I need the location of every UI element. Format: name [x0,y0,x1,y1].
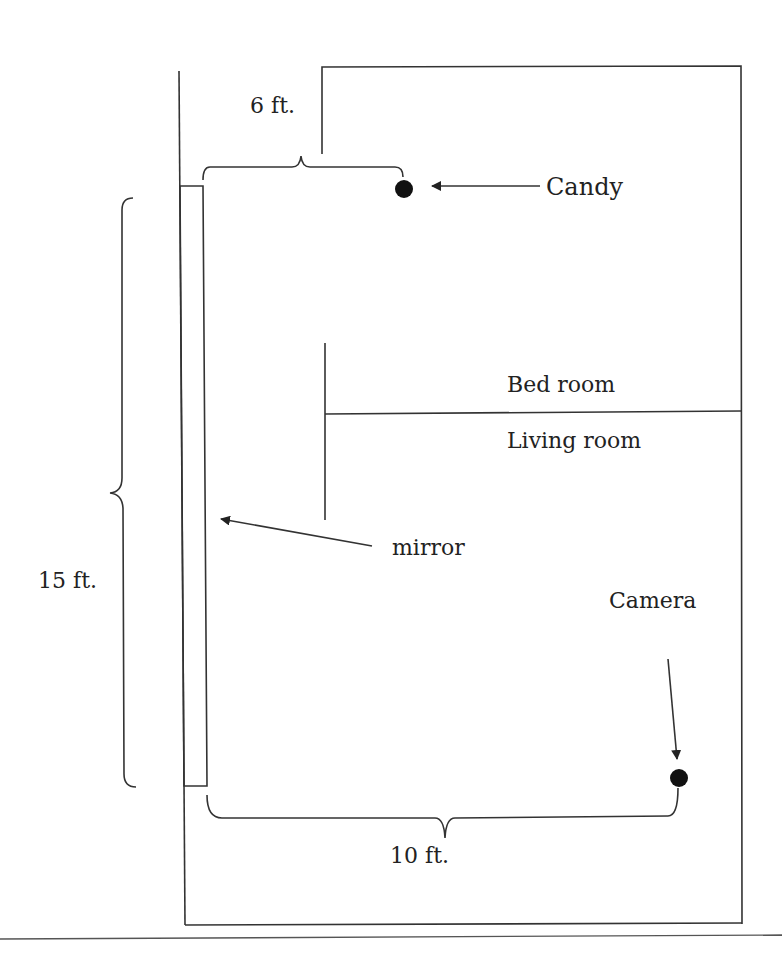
mirror-rect [180,186,207,786]
camera-arrow [668,659,677,759]
dimension-label-6ft: 6 ft. [250,95,295,117]
bottom-wall [185,923,742,925]
floor-plan-drawing [0,0,782,975]
brace-6ft [203,156,403,180]
bedroom-label: Bed room [507,374,615,396]
floor-plan-diagram: 6 ft. Candy Bed room Living room mirror … [0,0,782,975]
camera-dot [670,769,688,787]
living-room-label: Living room [507,430,641,452]
dimension-label-15ft: 15 ft. [38,570,97,592]
candy-dot [395,180,413,198]
candy-label: Candy [546,175,623,199]
mirror-label: mirror [392,537,465,559]
room-divider-wall [325,411,741,414]
top-wall [322,66,742,924]
dimension-label-10ft: 10 ft. [390,845,449,867]
camera-label: Camera [609,590,696,612]
page-divider [0,935,782,939]
brace-10ft [207,788,678,838]
brace-15ft [110,198,136,787]
mirror-arrow [221,519,372,546]
